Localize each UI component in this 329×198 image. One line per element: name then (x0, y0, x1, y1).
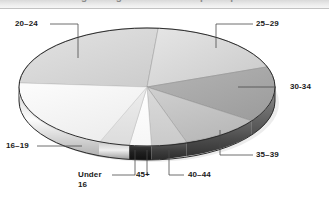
slice-label-under-16: Under 16 (78, 170, 112, 189)
side-wall-45-plus (129, 145, 151, 160)
pie-chart-figure: Figure: Age distribution of participants (0, 0, 329, 198)
slice-20-24 (19, 28, 158, 87)
slice-label-20-24: 20–24 (15, 19, 38, 29)
slice-label-30-34: 30-34 (290, 82, 311, 92)
slice-label-40-44: 40–44 (188, 170, 211, 180)
slice-label-25-29: 25–29 (256, 19, 279, 29)
slice-label-16-19: 16–19 (6, 141, 29, 151)
pie-chart-canvas (0, 0, 329, 198)
slice-label-35-39: 35–39 (256, 150, 279, 160)
slice-label-45-plus: 45+ (136, 170, 150, 180)
